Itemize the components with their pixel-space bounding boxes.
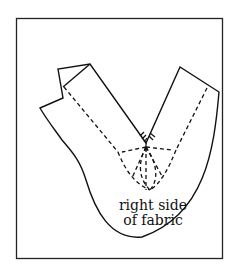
stitch-lines <box>64 87 207 190</box>
annotation-right-side: right side <box>118 198 188 213</box>
sewing-diagram <box>0 0 237 271</box>
annotation-of-fabric: of fabric <box>118 213 188 228</box>
